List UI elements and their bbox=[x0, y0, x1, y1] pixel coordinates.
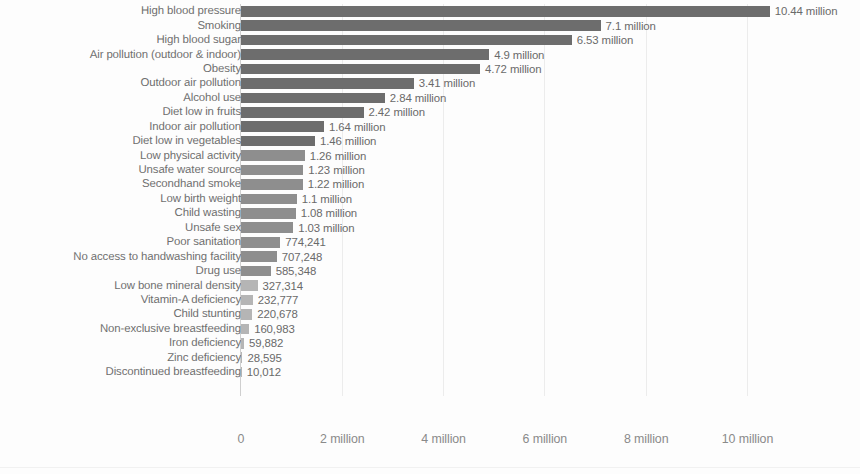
bar-row: High blood sugar6.53 million bbox=[0, 33, 860, 47]
bar-row: Outdoor air pollution3.41 million bbox=[0, 76, 860, 90]
bar-and-value: 59,882 bbox=[241, 336, 283, 350]
bar-value-label: 220,678 bbox=[257, 308, 297, 320]
category-label: Low physical activity bbox=[3, 150, 241, 162]
category-label: Obesity bbox=[3, 63, 241, 75]
bar bbox=[241, 309, 252, 320]
category-label: Indoor air pollution bbox=[3, 121, 241, 133]
bar-row: Child stunting220,678 bbox=[0, 307, 860, 321]
bar-and-value: 585,348 bbox=[241, 264, 316, 278]
category-label: Child wasting bbox=[3, 207, 241, 219]
bar-value-label: 1.23 million bbox=[308, 164, 364, 176]
bar-row: Discontinued breastfeeding10,012 bbox=[0, 365, 860, 379]
category-label: Discontinued breastfeeding bbox=[3, 366, 241, 378]
bar-value-label: 7.1 million bbox=[606, 20, 656, 32]
category-label: Child stunting bbox=[3, 308, 241, 320]
bar-and-value: 774,241 bbox=[241, 235, 326, 249]
bar-value-label: 1.1 million bbox=[302, 193, 352, 205]
category-label: Poor sanitation bbox=[3, 236, 241, 248]
bar bbox=[241, 20, 601, 31]
category-label: Air pollution (outdoor & indoor) bbox=[3, 49, 241, 61]
bar-row: Indoor air pollution1.64 million bbox=[0, 120, 860, 134]
bar bbox=[241, 179, 303, 190]
bar-value-label: 10,012 bbox=[247, 366, 281, 378]
bar-value-label: 1.22 million bbox=[308, 178, 364, 190]
bar-and-value: 1.1 million bbox=[241, 192, 352, 206]
bar-value-label: 327,314 bbox=[263, 280, 303, 292]
bar-and-value: 1.08 million bbox=[241, 206, 357, 220]
bar bbox=[241, 367, 242, 378]
bar-and-value: 327,314 bbox=[241, 278, 303, 292]
category-label: Zinc deficiency bbox=[3, 352, 241, 364]
x-axis-tick-label: 2 million bbox=[320, 432, 365, 446]
bar-row: Child wasting1.08 million bbox=[0, 206, 860, 220]
bar bbox=[241, 208, 296, 219]
bar-and-value: 10.44 million bbox=[241, 4, 837, 18]
bar bbox=[241, 222, 293, 233]
bar-and-value: 6.53 million bbox=[241, 33, 633, 47]
bar-and-value: 1.26 million bbox=[241, 148, 366, 162]
bar bbox=[241, 165, 303, 176]
category-label: Outdoor air pollution bbox=[3, 77, 241, 89]
bar bbox=[241, 150, 305, 161]
bar-value-label: 28,595 bbox=[247, 352, 281, 364]
category-label: Vitamin-A deficiency bbox=[3, 294, 241, 306]
category-label: High blood sugar bbox=[3, 34, 241, 46]
bar-value-label: 10.44 million bbox=[775, 5, 838, 17]
bar-row: Low physical activity1.26 million bbox=[0, 148, 860, 162]
bar-and-value: 2.42 million bbox=[241, 105, 425, 119]
bar-row: Drug use585,348 bbox=[0, 264, 860, 278]
bar-row: High blood pressure10.44 million bbox=[0, 4, 860, 18]
bar-row: Diet low in fruits2.42 million bbox=[0, 105, 860, 119]
category-label: Unsafe sex bbox=[3, 222, 241, 234]
bar-value-label: 774,241 bbox=[285, 236, 325, 248]
bar-and-value: 220,678 bbox=[241, 307, 298, 321]
category-label: Alcohol use bbox=[3, 92, 241, 104]
bar-value-label: 59,882 bbox=[249, 337, 283, 349]
bar-value-label: 6.53 million bbox=[577, 34, 633, 46]
bar-value-label: 232,777 bbox=[258, 294, 298, 306]
bar-row: Smoking7.1 million bbox=[0, 18, 860, 32]
bar bbox=[241, 266, 271, 277]
category-label: Diet low in fruits bbox=[3, 106, 241, 118]
bar-value-label: 2.42 million bbox=[369, 106, 425, 118]
category-label: Low bone mineral density bbox=[3, 280, 241, 292]
bar-row: No access to handwashing facility707,248 bbox=[0, 249, 860, 263]
bar-value-label: 160,983 bbox=[254, 323, 294, 335]
category-label: No access to handwashing facility bbox=[3, 251, 241, 263]
bar-value-label: 1.64 million bbox=[329, 121, 385, 133]
bar-and-value: 4.72 million bbox=[241, 62, 541, 76]
bar bbox=[241, 93, 385, 104]
bar bbox=[241, 121, 324, 132]
bar bbox=[241, 352, 242, 363]
bar-row: Vitamin-A deficiency232,777 bbox=[0, 293, 860, 307]
bar bbox=[241, 6, 770, 17]
bar-and-value: 1.64 million bbox=[241, 120, 385, 134]
bar-and-value: 707,248 bbox=[241, 249, 322, 263]
bar bbox=[241, 49, 489, 60]
category-label: Drug use bbox=[3, 265, 241, 277]
x-axis-tick-labels: 02 million4 million6 million8 million10 … bbox=[0, 432, 860, 454]
bar-row: Zinc deficiency28,595 bbox=[0, 351, 860, 365]
bar bbox=[241, 237, 280, 248]
page-bottom-edge bbox=[0, 467, 860, 468]
bar-value-label: 2.84 million bbox=[390, 92, 446, 104]
bar bbox=[241, 107, 364, 118]
x-axis-tick-label: 4 million bbox=[421, 432, 466, 446]
bar bbox=[241, 251, 277, 262]
category-label: Unsafe water source bbox=[3, 164, 241, 176]
bar-and-value: 4.9 million bbox=[241, 47, 544, 61]
bar-value-label: 1.03 million bbox=[298, 222, 354, 234]
bar-value-label: 3.41 million bbox=[419, 77, 475, 89]
bar-and-value: 1.46 million bbox=[241, 134, 376, 148]
bar-and-value: 1.03 million bbox=[241, 221, 355, 235]
x-axis-tick-label: 6 million bbox=[523, 432, 568, 446]
bar-and-value: 3.41 million bbox=[241, 76, 475, 90]
bar bbox=[241, 338, 244, 349]
bar-value-label: 585,348 bbox=[276, 265, 316, 277]
bar-row: Low bone mineral density327,314 bbox=[0, 278, 860, 292]
bar-and-value: 2.84 million bbox=[241, 91, 446, 105]
bar bbox=[241, 324, 249, 335]
bar-row: Non-exclusive breastfeeding160,983 bbox=[0, 322, 860, 336]
bar-and-value: 28,595 bbox=[241, 351, 282, 365]
bar bbox=[241, 78, 414, 89]
